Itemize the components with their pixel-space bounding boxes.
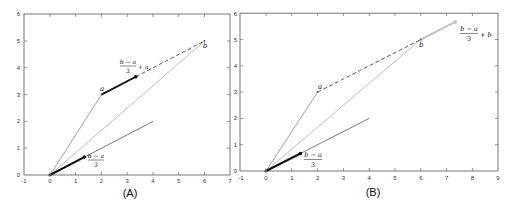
svg-text:8: 8 [471, 175, 475, 181]
svg-text:6: 6 [17, 11, 21, 17]
svg-text:4: 4 [368, 175, 372, 181]
svg-text:1: 1 [234, 142, 238, 148]
svg-text:4: 4 [151, 178, 155, 184]
svg-text:3: 3 [126, 67, 130, 74]
svg-text:0: 0 [48, 178, 52, 184]
label-frac-plus-b: b − a 3 + b [460, 25, 492, 43]
svg-text:3: 3 [311, 161, 315, 169]
svg-text:b − a: b − a [460, 25, 478, 33]
svg-text:-1: -1 [21, 178, 27, 184]
label-frac-plus-a: b − a 3 + a [120, 58, 149, 74]
svg-text:3: 3 [126, 178, 130, 184]
panel-b-frame [240, 13, 498, 171]
panel-b: -1 0 1 2 3 4 5 6 7 8 9 0 1 2 3 4 5 6 [234, 11, 501, 199]
svg-text:5: 5 [177, 178, 181, 184]
panel-b-label: (B) [366, 186, 381, 198]
svg-text:2: 2 [17, 118, 21, 124]
svg-text:2: 2 [100, 178, 104, 184]
svg-text:0: 0 [264, 175, 268, 181]
svg-text:5: 5 [17, 38, 21, 44]
point-shifted [453, 20, 457, 24]
svg-text:4: 4 [234, 63, 238, 69]
svg-text:+ a: + a [138, 63, 149, 70]
svg-text:3: 3 [342, 175, 346, 181]
panel-b-x-tick-labels: -1 0 1 2 3 4 5 6 7 8 9 [238, 175, 500, 181]
point-b-minus-a-third [299, 152, 303, 156]
svg-text:2: 2 [316, 175, 320, 181]
point-shifted [134, 75, 138, 79]
label-b: b [419, 41, 424, 49]
point-origin [264, 169, 267, 172]
panel-b-y-tick-labels: 0 1 2 3 4 5 6 [234, 11, 238, 175]
line-a-to-b-dashed [318, 40, 421, 93]
svg-text:7: 7 [228, 178, 232, 184]
label-frac-b-minus-a: b − a 3 [304, 151, 322, 169]
svg-text:1: 1 [290, 175, 294, 181]
svg-text:-1: -1 [238, 175, 244, 181]
svg-text:3: 3 [467, 35, 471, 43]
svg-text:1: 1 [17, 145, 21, 151]
line-origin-to-a [266, 92, 318, 171]
svg-text:+ b: + b [480, 31, 492, 39]
svg-text:9: 9 [496, 175, 500, 181]
label-a: a [318, 83, 322, 91]
svg-text:4: 4 [17, 65, 21, 71]
label-a: a [100, 85, 104, 93]
label-b: b [203, 42, 208, 50]
panel-a-frame [24, 14, 230, 175]
svg-text:3: 3 [234, 89, 238, 95]
panel-b-x-ticks [266, 13, 472, 171]
svg-text:b − a: b − a [88, 152, 105, 159]
point-a [101, 94, 103, 96]
svg-text:b − a: b − a [120, 58, 137, 65]
panel-a-y-tick-labels: 0 1 2 3 4 5 6 [17, 11, 21, 178]
svg-text:6: 6 [203, 178, 207, 184]
svg-text:1: 1 [74, 178, 78, 184]
label-frac-b-minus-a: b − a 3 [88, 152, 105, 168]
line-origin-to-b [266, 40, 421, 172]
svg-text:0: 0 [234, 168, 238, 174]
figure: -1 0 1 2 3 4 5 6 7 0 1 2 3 4 5 6 [0, 0, 514, 211]
svg-text:2: 2 [234, 115, 238, 121]
line-a-to-shifted [102, 77, 136, 95]
panel-a-x-tick-labels: -1 0 1 2 3 4 5 6 7 [21, 178, 232, 184]
panel-a-label: (A) [123, 187, 138, 199]
svg-text:0: 0 [17, 172, 21, 178]
panel-a: -1 0 1 2 3 4 5 6 7 0 1 2 3 4 5 6 [17, 11, 233, 199]
svg-text:3: 3 [17, 92, 21, 98]
panel-a-x-ticks [50, 14, 205, 175]
point-a [317, 91, 319, 93]
panel-b-y-ticks [240, 40, 498, 145]
svg-text:7: 7 [445, 175, 449, 181]
svg-text:b − a: b − a [304, 151, 322, 159]
svg-text:5: 5 [393, 175, 397, 181]
svg-text:3: 3 [94, 161, 98, 168]
point-b-minus-a-third [83, 155, 87, 159]
svg-text:5: 5 [234, 37, 238, 43]
svg-text:6: 6 [234, 11, 238, 17]
svg-text:6: 6 [419, 175, 423, 181]
line-b-to-shifted [421, 22, 455, 40]
point-origin [48, 173, 51, 176]
